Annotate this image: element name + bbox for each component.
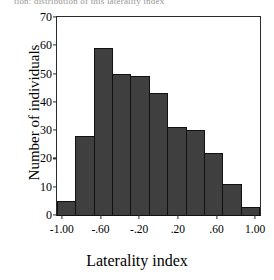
- y-axis-tick-mark: [53, 73, 57, 74]
- histogram-bar: [186, 130, 205, 215]
- y-axis-tick-mark: [53, 101, 57, 102]
- x-axis-tick-mark: [139, 215, 140, 219]
- histogram-bar: [204, 153, 223, 215]
- plot-area: 010203040506070-1.00-.60-.20.20.601.00: [56, 16, 261, 216]
- histogram-bar: [149, 93, 168, 215]
- y-axis-tick-mark: [53, 158, 57, 159]
- histogram-figure: tion: distribution of this laterality in…: [0, 0, 274, 280]
- histogram-bar: [167, 127, 186, 215]
- y-axis-tick-label: 0: [18, 208, 57, 223]
- x-axis-tick-label: .20: [171, 223, 185, 235]
- x-axis-tick-label: -.60: [91, 223, 109, 235]
- x-axis-tick-mark: [216, 215, 217, 219]
- y-axis-tick-mark: [53, 186, 57, 187]
- y-axis-tick-label: 10: [18, 179, 57, 194]
- histogram-bar: [94, 48, 113, 215]
- x-axis-tick-mark: [255, 215, 256, 219]
- y-axis-tick-mark: [53, 130, 57, 131]
- y-axis-tick-label: 50: [18, 66, 57, 81]
- y-axis-tick-mark: [53, 16, 57, 17]
- x-axis-tick-label: -1.00: [50, 223, 74, 235]
- x-axis-tick-label: 1.00: [245, 223, 265, 235]
- y-axis-tick-label: 60: [18, 38, 57, 53]
- histogram-bar: [75, 136, 94, 215]
- y-axis-tick-label: 20: [18, 151, 57, 166]
- x-axis-tick-label: -.20: [130, 223, 148, 235]
- y-axis-tick-mark: [53, 45, 57, 46]
- histogram-bar: [241, 207, 260, 215]
- y-axis-tick-label: 70: [18, 10, 57, 25]
- bar-series: [57, 17, 260, 215]
- y-axis-tick-mark: [53, 214, 57, 215]
- y-axis-tick-label: 40: [18, 94, 57, 109]
- histogram-bar: [222, 184, 241, 215]
- y-axis-tick-label: 30: [18, 123, 57, 138]
- histogram-bar: [112, 74, 131, 215]
- x-axis-tick-mark: [177, 215, 178, 219]
- x-axis-tick-label: .60: [209, 223, 223, 235]
- histogram-bar: [130, 76, 149, 215]
- x-axis-tick-mark: [100, 215, 101, 219]
- cropped-caption-sliver: tion: distribution of this laterality in…: [14, 0, 224, 6]
- x-axis-tick-mark: [61, 215, 62, 219]
- x-axis-title: Laterality index: [0, 252, 274, 270]
- histogram-bar: [57, 201, 76, 215]
